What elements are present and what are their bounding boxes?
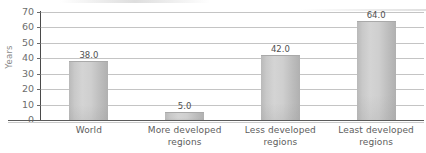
y-axis-tick-label: 10 bbox=[4, 100, 34, 110]
bar bbox=[357, 21, 396, 120]
x-axis-category-label-line: Less developed bbox=[230, 125, 330, 137]
scan-artifact-top bbox=[60, 0, 210, 3]
x-axis-category-label-line: regions bbox=[230, 137, 330, 149]
x-axis-line-shadow bbox=[8, 122, 424, 123]
y-axis-tick-label: 20 bbox=[4, 84, 34, 94]
x-axis-category-label-line: regions bbox=[135, 137, 235, 149]
y-axis-tick-mark bbox=[37, 89, 41, 90]
y-axis-tick-mark bbox=[37, 27, 41, 28]
x-axis-category-label-line: More developed bbox=[135, 125, 235, 137]
bar bbox=[165, 112, 204, 120]
bar bbox=[69, 61, 108, 120]
y-axis-tick-label: 70 bbox=[4, 7, 34, 17]
y-axis-tick-label: 40 bbox=[4, 54, 34, 64]
x-axis-category-label-line: World bbox=[39, 125, 139, 137]
y-axis-tick-label: 60 bbox=[4, 23, 34, 33]
y-axis-tick-label: 30 bbox=[4, 69, 34, 79]
plot-area: 706050403020100 38.05.042.064.0 bbox=[41, 12, 424, 120]
x-axis-category-label: Less developedregions bbox=[230, 125, 330, 148]
x-axis-category-label: More developedregions bbox=[135, 125, 235, 148]
bar-chart: Years 706050403020100 38.05.042.064.0 Wo… bbox=[0, 0, 426, 153]
x-axis-category-label-line: Least developed bbox=[326, 125, 426, 137]
bar-value-label: 38.0 bbox=[67, 51, 111, 60]
y-axis-tick-label: 50 bbox=[4, 38, 34, 48]
x-axis-category-label-line: regions bbox=[326, 137, 426, 149]
y-axis-tick-mark bbox=[37, 58, 41, 59]
y-axis-tick-mark bbox=[37, 105, 41, 106]
x-axis-category-label: World bbox=[39, 125, 139, 137]
bar-value-label: 5.0 bbox=[163, 102, 207, 111]
y-axis-tick-mark bbox=[37, 43, 41, 44]
bar-value-label: 64.0 bbox=[354, 11, 398, 20]
x-axis-category-label: Least developedregions bbox=[326, 125, 426, 148]
y-axis-tick-mark bbox=[37, 12, 41, 13]
y-axis-tick-mark bbox=[37, 74, 41, 75]
bar bbox=[261, 55, 300, 120]
bar-value-label: 42.0 bbox=[258, 45, 302, 54]
